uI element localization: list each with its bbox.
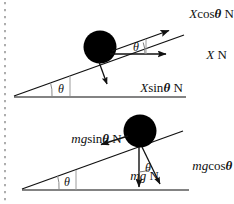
lower-base-angle-label: θ	[64, 175, 70, 189]
upper-xn-label: X N	[177, 47, 234, 62]
upper-base-angle-label: θ	[58, 82, 64, 96]
lower-mgsin-label: mgsinθ N	[42, 131, 144, 146]
lower-diagram: mgsinθ N mg N mgcosθ N θ θ	[22, 115, 234, 191]
lower-ball-angle-label: θ	[145, 161, 151, 175]
upper-ball-angle-label: θ	[133, 40, 139, 54]
lower-base-angle-arc	[58, 176, 59, 189]
upper-xcos-arrow	[112, 31, 169, 52]
upper-ball	[84, 31, 117, 64]
upper-xsin-arrow	[99, 62, 107, 84]
upper-diagram: Xcosθ N X N Xsinθ N θ θ	[14, 6, 234, 97]
upper-xcos-label: Xcosθ N	[160, 6, 234, 21]
physics-figure-page: Xcosθ N X N Xsinθ N θ θ	[0, 0, 234, 204]
upper-ball-angle-arc	[143, 43, 145, 55]
lower-mgcos-label: mgcosθ N	[163, 158, 234, 173]
upper-base-angle-arc	[51, 83, 53, 96]
upper-xsin-label: Xsinθ N	[111, 80, 206, 95]
